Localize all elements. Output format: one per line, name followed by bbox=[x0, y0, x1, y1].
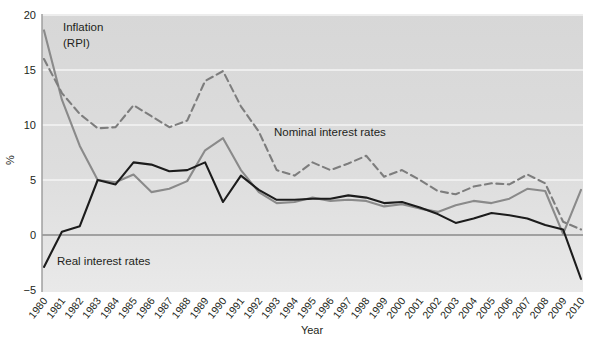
ytick-label-minus5: −5 bbox=[23, 284, 36, 296]
ytick-label-5: 5 bbox=[30, 174, 36, 186]
chart-figure: 20 15 10 5 0 −5 % 1980198119821983198419… bbox=[0, 0, 597, 344]
plot-area-background bbox=[42, 14, 583, 292]
ytick-label-15: 15 bbox=[24, 64, 36, 76]
ytick-label-20: 20 bbox=[24, 9, 36, 21]
annotation-nominal-interest-rates: Nominal interest rates bbox=[274, 126, 386, 138]
x-axis-title: Year bbox=[301, 324, 324, 336]
annotation-inflation-line2: (RPI) bbox=[63, 37, 90, 49]
annotation-inflation-line1: Inflation bbox=[63, 21, 103, 33]
annotation-real-interest-rates: Real interest rates bbox=[57, 255, 151, 267]
ytick-label-10: 10 bbox=[24, 119, 36, 131]
y-axis-title: % bbox=[4, 155, 16, 165]
interest-rates-line-chart: 20 15 10 5 0 −5 % 1980198119821983198419… bbox=[0, 0, 597, 344]
ytick-label-0: 0 bbox=[30, 229, 36, 241]
